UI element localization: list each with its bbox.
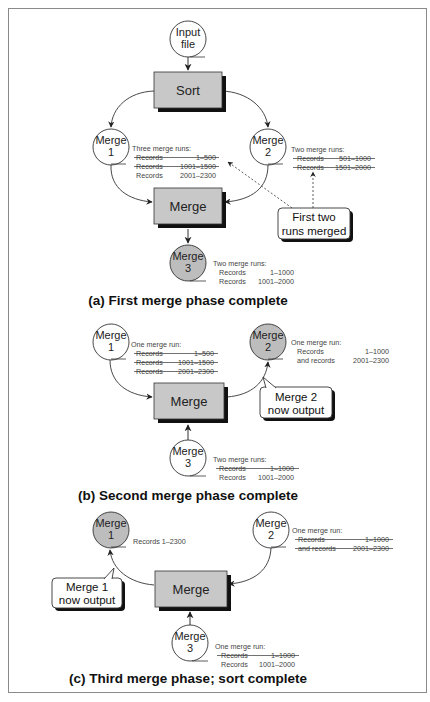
merge3-label-line1: Merge — [174, 630, 205, 642]
caption-panel-b: (b) Second merge phase complete — [78, 488, 298, 503]
run-label: Records — [297, 347, 324, 356]
panel-a: Input file Sort Merge 1 Three merge runs… — [88, 21, 375, 308]
merge1-node: Merge 1 — [93, 512, 129, 548]
merge1-node: Merge 1 — [93, 129, 129, 165]
runs-header: One merge run: — [292, 526, 342, 535]
merge3-runs-note: Two merge runs: Records 1–1000 Records 1… — [213, 455, 299, 482]
callout-first-two-runs: First two runs merged — [228, 162, 353, 242]
merge1-label-line2: 1 — [108, 146, 114, 158]
merge-box-c: Merge — [155, 571, 231, 611]
runs-header: Two merge runs: — [213, 259, 267, 268]
run-label: Records — [219, 277, 246, 286]
runs-header: One merge run: — [215, 642, 265, 651]
merge2-node: Merge 2 — [250, 324, 286, 360]
panel-c: Merge 1 Records 1–2300 Merge 2 One merge… — [52, 512, 393, 686]
input-node-label-line1: Input — [176, 26, 200, 38]
merge-box-b: Merge — [154, 383, 228, 423]
merge1-label-line2: 1 — [108, 529, 114, 541]
merge-box-label: Merge — [170, 199, 207, 214]
edge-merge2-to-merge — [229, 548, 271, 584]
merge2-runs-note: Two merge runs: Records 501–1000 Records… — [291, 145, 375, 172]
run-range: 2001–2300 — [180, 171, 216, 180]
merge3-runs-note: One merge run: Records 1–1000 Records 10… — [215, 642, 299, 669]
merge2-label-line1: Merge — [252, 134, 283, 146]
input-file-node: Input file — [170, 21, 206, 57]
merge1-label-line1: Merge — [95, 517, 126, 529]
run-label: Records — [136, 171, 163, 180]
merge3-node: Merge 3 — [170, 440, 206, 476]
merge1-label-line1: Merge — [95, 329, 126, 341]
merge-sort-diagram: Input file Sort Merge 1 Three merge runs… — [0, 0, 430, 702]
merge1-node: Merge 1 — [93, 324, 129, 360]
merge-box-a: Merge — [154, 188, 226, 228]
run-label: Records — [219, 268, 246, 277]
runs-header: One merge run: — [131, 340, 181, 349]
run-range: 1001–2000 — [258, 277, 294, 286]
callout-line1: Merge 2 — [275, 391, 317, 403]
run-label: Records — [221, 660, 248, 669]
edge-merge2-to-merge — [225, 165, 268, 202]
caption-panel-a: (a) First merge phase complete — [88, 293, 288, 308]
callout-line2: runs merged — [282, 225, 347, 237]
merge-box-label: Merge — [173, 582, 210, 597]
callout-merge2-output: Merge 2 now output — [260, 377, 335, 421]
merge2-label-line1: Merge — [252, 329, 283, 341]
runs-header: Two merge runs: — [291, 145, 345, 154]
merge2-node: Merge 2 — [253, 512, 289, 548]
merge3-label-line2: 3 — [187, 642, 193, 654]
run-range: 1001–2000 — [259, 660, 295, 669]
caption-panel-c: (c) Third merge phase; sort complete — [69, 671, 307, 686]
merge1-runs-note: Three merge runs: Records 1–500 Records … — [132, 144, 219, 180]
sort-box-label: Sort — [176, 83, 200, 98]
edge-sort-to-merge2 — [222, 91, 268, 127]
merge2-label-line1: Merge — [255, 517, 286, 529]
callout-line2: now output — [59, 594, 116, 606]
merge3-runs-note: Two merge runs: Records 1–1000 Records 1… — [213, 259, 294, 286]
sort-box: Sort — [154, 72, 226, 112]
merge1-runs-note: Records 1–2300 — [133, 537, 186, 546]
merge1-runs-note: One merge run: Records 1–500 Records 100… — [131, 340, 218, 376]
run-range: 1–1000 — [365, 347, 389, 356]
runs-header: One merge run: — [291, 338, 341, 347]
callout-line1: Merge 1 — [66, 581, 108, 593]
merge1-label-line2: 1 — [108, 341, 114, 353]
callout-line2: now output — [268, 404, 325, 416]
runs-header: Three merge runs: — [132, 144, 191, 153]
merge1-label-line1: Merge — [95, 134, 126, 146]
runs-header: Two merge runs: — [213, 455, 267, 464]
run-label: Records — [219, 473, 246, 482]
merge2-label-line2: 2 — [265, 341, 271, 353]
input-node-label-line2: file — [181, 38, 195, 50]
merge2-node: Merge 2 — [250, 129, 286, 165]
merge3-node: Merge 3 — [170, 245, 206, 281]
merge2-runs-note: One merge run: Records 1–1000 and record… — [291, 338, 389, 365]
callout-line1: First two — [292, 211, 335, 223]
run-range: 1001–2000 — [258, 473, 294, 482]
merge2-label-line2: 2 — [265, 146, 271, 158]
callout-merge1-output: Merge 1 now output — [52, 568, 125, 611]
merge-box-label: Merge — [171, 394, 208, 409]
merge2-label-line2: 2 — [268, 529, 274, 541]
merge3-label-line1: Merge — [172, 250, 203, 262]
panel-b: Merge 1 One merge run: Records 1–500 Rec… — [78, 324, 389, 503]
merge3-label-line1: Merge — [172, 445, 203, 457]
run-range: 2001–2300 — [353, 356, 389, 365]
merge2-runs-note: One merge run: Records 1–1000 and record… — [292, 526, 393, 553]
merge3-node: Merge 3 — [172, 625, 208, 661]
edge-sort-to-merge1 — [111, 91, 154, 127]
run-range: 1–1000 — [270, 268, 294, 277]
merge3-label-line2: 3 — [185, 262, 191, 274]
merge3-label-line2: 3 — [185, 457, 191, 469]
run-label: and records — [297, 356, 335, 365]
